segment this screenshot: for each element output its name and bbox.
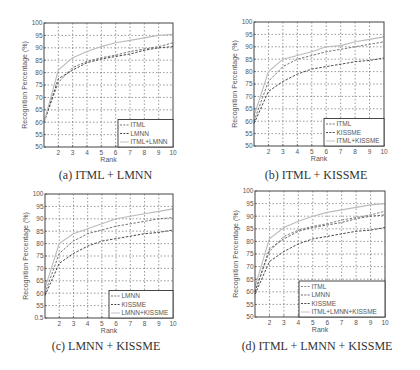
x-tick-label: 10 [169, 149, 177, 156]
y-tick-label: 65 [245, 105, 253, 112]
chart-panel-c: 0.55560657075808590951002345678910RankRe… [22, 190, 177, 353]
x-tick-label: 10 [381, 319, 389, 326]
y-tick-label: 65 [246, 276, 254, 283]
y-tick-label: 100 [32, 19, 43, 26]
y-tick-label: 80 [35, 69, 43, 76]
legend-label: ITML [131, 121, 146, 128]
legend-label: LMNN+KISSME [122, 309, 169, 316]
legend-label: LMNN [131, 130, 150, 137]
x-tick-label: 9 [368, 148, 372, 155]
x-tick-label: 3 [72, 320, 76, 327]
x-tick-label: 9 [157, 149, 161, 156]
x-tick-label: 8 [143, 149, 147, 156]
y-axis-label: Recognition Percentage (%) [21, 41, 29, 129]
legend: ITMLLMNNITML+LMNN [118, 120, 173, 148]
figure-canvas: 505560657075808590951002345678910RankRec… [0, 0, 420, 370]
y-axis-label: Recognition Percentage (%) [232, 210, 240, 298]
legend: ITMLKISSMEITML+KISSME [324, 119, 384, 147]
x-tick-label: 8 [143, 320, 147, 327]
legend: LMNNKISSMELMNN+KISSME [109, 291, 173, 319]
y-tick-label: 55 [36, 302, 44, 309]
legend-label: KISSME [337, 129, 362, 136]
y-tick-label: 60 [246, 288, 254, 295]
x-tick-label: 9 [157, 320, 161, 327]
y-tick-label: 90 [245, 43, 253, 50]
y-tick-label: 75 [246, 250, 254, 257]
y-tick-label: 65 [36, 277, 44, 284]
x-tick-label: 10 [169, 320, 177, 327]
chart-panel-b: 505560657075808590951002345678910RankRec… [231, 18, 388, 182]
legend-label: ITML [337, 120, 352, 127]
y-tick-label: 50 [246, 313, 254, 320]
y-tick-label: 100 [242, 18, 253, 25]
y-tick-label: 85 [35, 57, 43, 64]
x-axis-label: Rank [100, 156, 117, 163]
legend: ITMLLMNNKISSMEITML+LMNN+KISSME [299, 281, 385, 317]
subfigure-caption: (c) LMNN + KISSME [52, 339, 160, 353]
x-tick-label: 4 [85, 149, 89, 156]
x-axis-label: Rank [312, 326, 329, 333]
x-tick-label: 4 [297, 319, 301, 326]
y-tick-label: 55 [246, 301, 254, 308]
y-tick-label: 75 [36, 252, 44, 259]
y-tick-label: 80 [36, 240, 44, 247]
legend-label: KISSME [122, 301, 147, 308]
y-tick-label: 60 [36, 290, 44, 297]
y-tick-label: 70 [245, 93, 253, 100]
x-tick-label: 2 [267, 148, 271, 155]
x-tick-label: 9 [369, 319, 373, 326]
y-tick-label: 60 [35, 119, 43, 126]
x-tick-label: 8 [354, 319, 358, 326]
y-tick-label: 55 [35, 131, 43, 138]
x-tick-label: 2 [268, 319, 272, 326]
y-tick-label: 90 [35, 44, 43, 51]
y-tick-label: 55 [245, 130, 253, 137]
x-tick-label: 7 [340, 319, 344, 326]
legend-label: LMNN [122, 292, 141, 299]
y-tick-label: 100 [243, 187, 254, 194]
y-tick-label: 95 [246, 200, 254, 207]
y-tick-label: 100 [33, 190, 44, 197]
legend-label: KISSME [312, 300, 337, 307]
x-tick-label: 4 [86, 320, 90, 327]
x-axis-label: Rank [311, 155, 328, 162]
y-tick-label: 75 [35, 81, 43, 88]
chart-panel-a: 505560657075808590951002345678910RankRec… [21, 19, 177, 182]
y-axis-label: Recognition Percentage (%) [231, 40, 239, 128]
x-tick-label: 3 [282, 319, 286, 326]
y-tick-label: 90 [36, 215, 44, 222]
x-tick-label: 3 [281, 148, 285, 155]
x-tick-label: 4 [296, 148, 300, 155]
x-tick-label: 7 [339, 148, 343, 155]
y-tick-label: 0.5 [34, 314, 43, 321]
x-tick-label: 2 [57, 149, 61, 156]
y-tick-label: 80 [245, 68, 253, 75]
y-tick-label: 60 [245, 118, 253, 125]
y-tick-label: 95 [35, 32, 43, 39]
y-axis-label: Recognition Percentage (%) [22, 212, 30, 300]
y-tick-label: 95 [245, 31, 253, 38]
y-tick-label: 85 [245, 56, 253, 63]
legend-label: ITML+LMNN [131, 138, 168, 145]
y-tick-label: 65 [35, 106, 43, 113]
y-tick-label: 80 [246, 238, 254, 245]
y-tick-label: 70 [35, 94, 43, 101]
y-tick-label: 50 [35, 143, 43, 150]
y-tick-label: 95 [36, 203, 44, 210]
x-tick-label: 7 [129, 320, 133, 327]
subfigure-caption: (a) ITML + LMNN [59, 168, 153, 182]
y-tick-label: 90 [246, 213, 254, 220]
legend-label: ITML+LMNN+KISSME [312, 308, 378, 315]
subfigure-caption: (b) ITML + KISSME [265, 168, 368, 182]
y-tick-label: 50 [245, 142, 253, 149]
legend-label: ITML+KISSME [337, 137, 381, 144]
y-tick-label: 85 [36, 228, 44, 235]
y-tick-label: 70 [246, 263, 254, 270]
subfigure-caption: (d) ITML + LMNN + KISSME [242, 339, 393, 353]
y-tick-label: 75 [245, 80, 253, 87]
x-tick-label: 8 [353, 148, 357, 155]
y-tick-label: 70 [36, 265, 44, 272]
legend-label: LMNN [312, 291, 331, 298]
chart-panel-d: 505560657075808590951002345678910RankRec… [232, 187, 392, 353]
x-axis-label: Rank [101, 327, 118, 334]
